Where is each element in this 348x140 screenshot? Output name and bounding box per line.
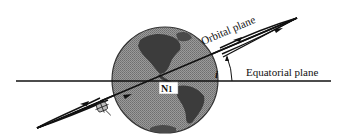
ascending-node-label: N1	[159, 82, 178, 94]
inclination-arc	[225, 55, 232, 81]
node-label-sub: 1	[168, 85, 172, 94]
orbital-inclination-diagram: Orbital plane Equatorial plane i N1	[0, 0, 348, 140]
svg-text:N1: N1	[161, 83, 172, 94]
equatorial-plane-label: Equatorial plane	[246, 66, 319, 78]
